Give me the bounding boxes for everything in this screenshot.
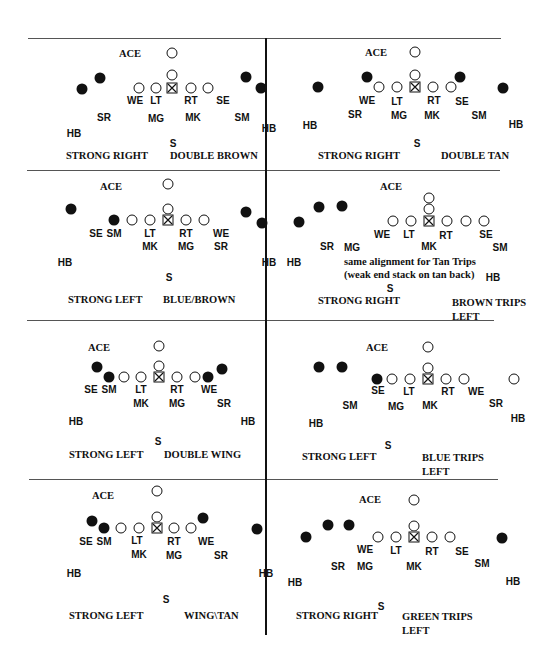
receiver-dot bbox=[256, 83, 267, 94]
label-se: SE bbox=[79, 536, 92, 547]
ace-back-circle bbox=[424, 193, 435, 204]
center-box-icon bbox=[152, 523, 163, 534]
divider-row-2 bbox=[27, 320, 494, 321]
strength-caption: STRONG RIGHT bbox=[296, 609, 378, 623]
receiver-dot bbox=[497, 533, 508, 544]
label-we: WE bbox=[359, 95, 375, 106]
label-hb-right: HB bbox=[509, 119, 523, 130]
label-s: S bbox=[378, 601, 385, 612]
receiver-dot bbox=[314, 362, 325, 373]
ace-label: ACE bbox=[88, 342, 110, 353]
label-we: WE bbox=[198, 536, 214, 547]
center-box-icon bbox=[163, 215, 174, 226]
divider-row-3 bbox=[29, 479, 498, 480]
label-sr: SR bbox=[348, 109, 362, 120]
label-mg: MG bbox=[357, 561, 373, 572]
label-sm: SM bbox=[102, 384, 117, 395]
lineman-circle bbox=[446, 82, 457, 93]
label-hb-left: HB bbox=[287, 257, 301, 268]
receiver-dot bbox=[92, 362, 103, 373]
label-sm: SM bbox=[97, 536, 112, 547]
qb-circle bbox=[152, 512, 163, 523]
receiver-dot bbox=[217, 364, 228, 375]
lineman-circle bbox=[441, 374, 452, 385]
note-line-1: same alignment for Tan Trips bbox=[344, 256, 476, 267]
label-rt: RT bbox=[441, 386, 454, 397]
label-we: WE bbox=[213, 228, 229, 239]
label-rt: RT bbox=[179, 228, 192, 239]
receiver-dot bbox=[337, 201, 348, 212]
lineman-circle bbox=[442, 216, 453, 227]
alignment-note: same alignment for Tan Trips(weak end st… bbox=[344, 255, 476, 281]
label-sm: SM bbox=[472, 110, 487, 121]
label-mk: MK bbox=[142, 241, 158, 252]
label-hb-left: HB bbox=[69, 416, 83, 427]
note-line-2: (weak end stack on tan back) bbox=[344, 269, 474, 280]
label-mk: MK bbox=[133, 398, 149, 409]
label-we: WE bbox=[201, 384, 217, 395]
label-s: S bbox=[170, 138, 177, 149]
label-lt: LT bbox=[144, 228, 155, 239]
lineman-circle bbox=[136, 372, 147, 383]
label-mk: MK bbox=[421, 241, 437, 252]
label-sr: SR bbox=[217, 398, 231, 409]
center-box-icon bbox=[410, 82, 421, 93]
label-we: WE bbox=[127, 95, 143, 106]
label-rt: RT bbox=[167, 536, 180, 547]
label-mk: MK bbox=[185, 112, 201, 123]
label-rt: RT bbox=[425, 546, 438, 557]
lineman-circle bbox=[391, 532, 402, 543]
label-hb-right: HB bbox=[486, 272, 500, 283]
label-mk: MK bbox=[131, 549, 147, 560]
label-hb-left: HB bbox=[67, 568, 81, 579]
lineman-circle bbox=[186, 83, 197, 94]
lineman-circle bbox=[151, 83, 162, 94]
label-lt: LT bbox=[131, 535, 142, 546]
label-hb-left: HB bbox=[309, 418, 323, 429]
qb-circle bbox=[424, 204, 435, 215]
label-we: WE bbox=[468, 386, 484, 397]
lineman-circle bbox=[186, 523, 197, 534]
receiver-dot bbox=[87, 516, 98, 527]
label-se: SE bbox=[455, 96, 468, 107]
lineman-circle bbox=[427, 532, 438, 543]
receiver-dot bbox=[241, 72, 252, 83]
formation-caption: BROWN TRIPSLEFT bbox=[452, 296, 526, 324]
receiver-dot bbox=[313, 82, 324, 93]
label-se: SE bbox=[89, 228, 102, 239]
formation-caption: WING\TAN bbox=[184, 609, 239, 623]
label-mg: MG bbox=[391, 110, 407, 121]
lineman-circle bbox=[134, 523, 145, 534]
label-lt: LT bbox=[390, 545, 401, 556]
lineman-circle bbox=[405, 374, 416, 385]
formation-line-2: LEFT bbox=[402, 625, 429, 636]
qb-circle bbox=[154, 361, 165, 372]
label-hb-right: HB bbox=[259, 568, 273, 579]
ace-back-circle bbox=[154, 341, 165, 352]
ace-label: ACE bbox=[119, 48, 141, 59]
ace-label: ACE bbox=[100, 181, 122, 192]
ace-label: ACE bbox=[380, 181, 402, 192]
strength-caption: STRONG RIGHT bbox=[66, 149, 148, 163]
center-box-icon bbox=[167, 83, 178, 94]
lineman-circle bbox=[127, 215, 138, 226]
label-hb-right: HB bbox=[511, 413, 525, 424]
label-lt: LT bbox=[135, 384, 146, 395]
lineman-circle bbox=[199, 215, 210, 226]
receiver-dot bbox=[314, 202, 325, 213]
receiver-dot bbox=[95, 73, 106, 84]
lineman-circle bbox=[459, 374, 470, 385]
strength-caption: STRONG LEFT bbox=[69, 609, 143, 623]
label-s: S bbox=[385, 440, 392, 451]
lineman-circle bbox=[169, 523, 180, 534]
receiver-dot bbox=[203, 372, 214, 383]
receiver-dot bbox=[337, 362, 348, 373]
label-sm: SM bbox=[493, 242, 508, 253]
receiver-dot bbox=[198, 513, 209, 524]
label-hb-right: HB bbox=[262, 123, 276, 134]
ace-back-circle bbox=[152, 486, 163, 497]
label-s: S bbox=[414, 138, 421, 149]
center-box-icon bbox=[424, 216, 435, 227]
receiver-dot bbox=[301, 532, 312, 543]
formation-line-2: LEFT bbox=[452, 311, 479, 322]
